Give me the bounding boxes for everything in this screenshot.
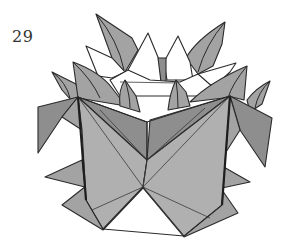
origami-model-illustration [0,0,290,247]
body [78,96,230,236]
